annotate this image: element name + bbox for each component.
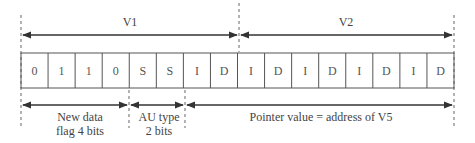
bit-cell-10: I <box>303 64 307 78</box>
flag-label-line2: flag 4 bits <box>30 124 130 138</box>
bit-cell-6: I <box>195 64 199 78</box>
bit-cell-7: D <box>220 64 229 78</box>
bit-cell-2: 1 <box>86 64 92 78</box>
bit-cell-13: D <box>382 64 391 78</box>
au-type-label-line1: AU type <box>132 110 186 124</box>
bit-cell-1: 1 <box>59 64 65 78</box>
au-type-label: AU type 2 bits <box>132 110 186 138</box>
bit-cell-0: 0 <box>32 64 38 78</box>
flag-label: New data flag 4 bits <box>30 110 130 138</box>
flag-label-line1: New data <box>30 110 130 124</box>
v2-label: V2 <box>331 15 361 29</box>
pointer-label: Pointer value = address of V5 <box>190 110 452 124</box>
bit-cell-11: D <box>328 64 337 78</box>
bit-cells: 0110SSIDIDIDIDID <box>21 53 454 88</box>
bit-cell-4: S <box>139 64 146 78</box>
pointer-label-line1: Pointer value = address of V5 <box>190 110 452 124</box>
bit-cell-8: I <box>249 64 253 78</box>
bit-cell-12: I <box>357 64 361 78</box>
bit-cell-5: S <box>167 64 174 78</box>
bit-cell-14: I <box>411 64 415 78</box>
au-type-label-line2: 2 bits <box>132 124 186 138</box>
bit-cell-3: 0 <box>113 64 119 78</box>
v1-label: V1 <box>115 15 145 29</box>
bit-cell-9: D <box>274 64 283 78</box>
bit-cell-15: D <box>436 64 445 78</box>
